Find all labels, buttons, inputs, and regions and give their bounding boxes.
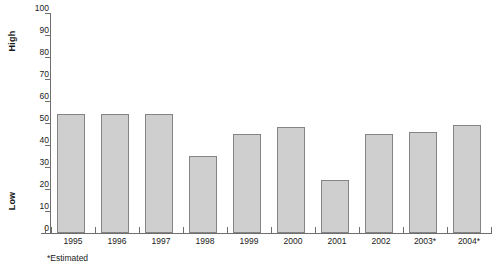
x-axis-category-label: 1999 <box>229 236 269 246</box>
bar[interactable] <box>277 127 305 233</box>
y-axis-tick-mark <box>45 167 51 168</box>
x-axis-tick-mark <box>227 227 228 234</box>
bar[interactable] <box>101 114 129 233</box>
x-axis-category-label: 1997 <box>141 236 181 246</box>
bar-slot <box>51 13 91 233</box>
bar-slot <box>447 13 487 233</box>
y-axis-tick-mark <box>45 79 51 80</box>
x-axis-category-label: 1996 <box>97 236 137 246</box>
x-axis-category-label: 2003* <box>405 236 445 246</box>
x-axis-origin-tick <box>45 227 46 234</box>
bar-slot <box>315 13 355 233</box>
x-axis-line <box>41 233 491 234</box>
bar[interactable] <box>453 125 481 233</box>
bar[interactable] <box>57 114 85 233</box>
x-axis-tick-mark <box>403 227 404 234</box>
x-axis-category-label: 2004* <box>449 236 489 246</box>
bar[interactable] <box>365 134 393 233</box>
bar-chart: High Low 0102030405060708090100 *Estimat… <box>0 0 498 274</box>
x-axis-tick-mark <box>139 227 140 234</box>
axis-high-label: High <box>7 21 17 61</box>
bar-slot <box>227 13 267 233</box>
y-axis-tick-mark <box>45 13 51 14</box>
x-axis-category-label: 1995 <box>53 236 93 246</box>
bar[interactable] <box>409 132 437 233</box>
axis-low-label: Low <box>7 181 17 221</box>
x-axis-category-label: 1998 <box>185 236 225 246</box>
x-axis-tick-mark <box>359 227 360 234</box>
x-axis-tick-mark <box>447 227 448 234</box>
y-axis-tick-mark <box>45 57 51 58</box>
bar[interactable] <box>145 114 173 233</box>
plot-area <box>51 13 491 233</box>
x-axis-tick-mark <box>491 227 492 234</box>
y-axis-tick-mark <box>45 145 51 146</box>
x-axis-tick-mark <box>95 227 96 234</box>
footnote: *Estimated <box>47 253 88 263</box>
bar-slot <box>139 13 179 233</box>
bar[interactable] <box>189 156 217 233</box>
y-axis-tick-mark <box>45 123 51 124</box>
x-axis-tick-mark <box>271 227 272 234</box>
bar-slot <box>183 13 223 233</box>
x-axis-tick-mark <box>51 227 52 234</box>
bar[interactable] <box>233 134 261 233</box>
bar-slot <box>271 13 311 233</box>
x-axis-tick-mark <box>183 227 184 234</box>
bar-slot <box>403 13 443 233</box>
x-axis-category-label: 2000 <box>273 236 313 246</box>
x-axis-tick-mark <box>315 227 316 234</box>
y-axis-tick-mark <box>45 35 51 36</box>
y-axis-tick-mark <box>45 211 51 212</box>
x-axis-category-label: 2002 <box>361 236 401 246</box>
bar-slot <box>359 13 399 233</box>
y-axis-tick-mark <box>45 101 51 102</box>
y-axis-tick-mark <box>45 189 51 190</box>
bar[interactable] <box>321 180 349 233</box>
x-axis-category-label: 2001 <box>317 236 357 246</box>
bar-slot <box>95 13 135 233</box>
y-axis-labels: 0102030405060708090100 <box>26 8 50 240</box>
